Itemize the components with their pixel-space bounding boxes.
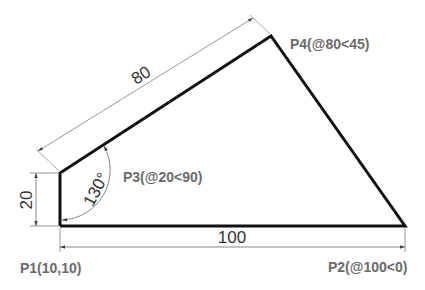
- label-p3: P3(@20<90): [123, 169, 202, 185]
- label-p1: P1(10,10): [20, 260, 81, 276]
- dimension-100: 100: [60, 228, 405, 252]
- dimension-20-text: 20: [17, 191, 36, 210]
- shape-outline: [60, 36, 405, 226]
- angle-dimension: 130°: [62, 146, 113, 220]
- dimension-80: 80: [36, 15, 270, 171]
- label-p2: P2(@100<0): [328, 259, 407, 275]
- dimension-100-text: 100: [218, 228, 246, 247]
- cad-drawing: 100 20 80 130° P4(@80<45) P3(@20<90) P1(…: [0, 0, 425, 290]
- label-p4: P4(@80<45): [290, 36, 369, 52]
- dimension-20: 20: [17, 173, 58, 226]
- angle-text: 130°: [79, 169, 112, 209]
- dimension-80-text: 80: [128, 62, 154, 88]
